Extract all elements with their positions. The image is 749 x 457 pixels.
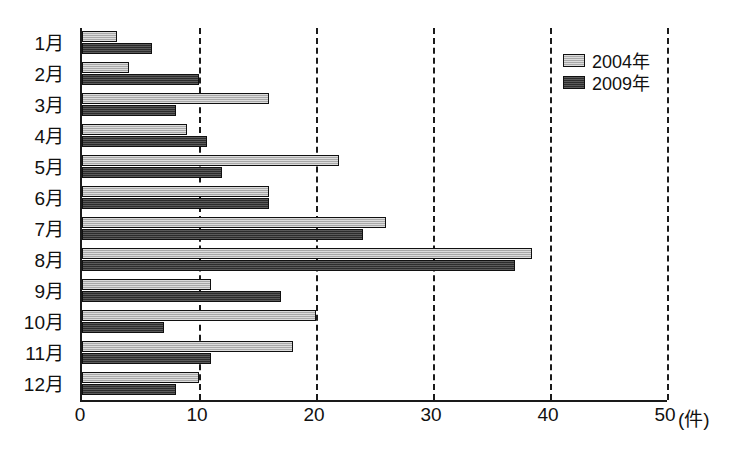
bar-row — [82, 152, 667, 183]
tick-label-40: 40 — [537, 404, 558, 426]
chart-figure: 1月2月3月4月5月6月7月8月9月10月11月12月 (件) 01020304… — [0, 0, 749, 457]
category-label-12月: 12月 — [24, 369, 64, 400]
bar-row — [82, 90, 667, 121]
tick-label-50: 50 — [654, 404, 675, 426]
category-label-1月: 1月 — [34, 28, 64, 59]
category-label-11月: 11月 — [25, 338, 64, 369]
bar-6月-2009年 — [82, 198, 269, 209]
category-label-4月: 4月 — [34, 121, 64, 152]
value-axis-labels: (件) 01020304050 — [0, 404, 749, 438]
category-label-2月: 2月 — [34, 59, 64, 90]
bar-6月-2004年 — [82, 186, 269, 197]
tick-label-10: 10 — [186, 404, 207, 426]
bar-9月-2004年 — [82, 279, 211, 290]
legend: 2004年2009年 — [563, 49, 681, 93]
bar-8月-2004年 — [82, 248, 532, 259]
category-label-7月: 7月 — [34, 214, 64, 245]
legend-label: 2009年 — [592, 69, 650, 95]
bar-row — [82, 121, 667, 152]
light-gray-swatch — [563, 54, 585, 67]
bar-1月-2004年 — [82, 31, 117, 42]
tick-label-0: 0 — [75, 404, 86, 426]
axis-unit-label: (件) — [678, 404, 710, 431]
category-label-8月: 8月 — [34, 245, 64, 276]
bar-5月-2009年 — [82, 167, 222, 178]
bar-12月-2009年 — [82, 384, 176, 395]
bar-row — [82, 369, 667, 400]
bar-11月-2009年 — [82, 353, 211, 364]
bar-2月-2004年 — [82, 62, 129, 73]
bar-row — [82, 183, 667, 214]
bar-8月-2009年 — [82, 260, 515, 271]
bar-5月-2004年 — [82, 155, 339, 166]
bar-11月-2004年 — [82, 341, 293, 352]
bar-3月-2009年 — [82, 105, 176, 116]
category-label-5月: 5月 — [34, 152, 64, 183]
bar-12月-2004年 — [82, 372, 199, 383]
bar-10月-2004年 — [82, 310, 316, 321]
category-label-3月: 3月 — [34, 90, 64, 121]
category-label-9月: 9月 — [34, 276, 64, 307]
bar-row — [82, 214, 667, 245]
bar-3月-2004年 — [82, 93, 269, 104]
category-label-6月: 6月 — [34, 183, 64, 214]
bar-7月-2009年 — [82, 229, 363, 240]
bar-10月-2009年 — [82, 322, 164, 333]
bar-7月-2004年 — [82, 217, 386, 228]
bar-1月-2009年 — [82, 43, 152, 54]
bar-2月-2009年 — [82, 74, 199, 85]
bar-4月-2004年 — [82, 124, 187, 135]
bar-4月-2009年 — [82, 136, 207, 147]
legend-item-2009年: 2009年 — [563, 71, 681, 93]
bar-row — [82, 276, 667, 307]
bar-row — [82, 245, 667, 276]
tick-label-20: 20 — [303, 404, 324, 426]
tick-label-30: 30 — [420, 404, 441, 426]
bar-row — [82, 307, 667, 338]
bar-row — [82, 338, 667, 369]
category-label-10月: 10月 — [24, 307, 64, 338]
bar-9月-2009年 — [82, 291, 281, 302]
dark-gray-swatch — [563, 76, 585, 89]
legend-item-2004年: 2004年 — [563, 49, 681, 71]
category-axis-labels: 1月2月3月4月5月6月7月8月9月10月11月12月 — [0, 28, 72, 400]
